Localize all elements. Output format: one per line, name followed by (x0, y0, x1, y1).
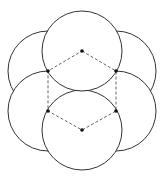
circle-hexagon-diagram (0, 0, 165, 181)
circles (8, 11, 156, 170)
vertex-dot (114, 109, 118, 113)
vertex-dot (46, 109, 50, 113)
vertex-dot (114, 69, 118, 73)
vertex-dot (80, 128, 84, 132)
vertex-dot (46, 69, 50, 73)
vertex-dot (80, 49, 84, 53)
